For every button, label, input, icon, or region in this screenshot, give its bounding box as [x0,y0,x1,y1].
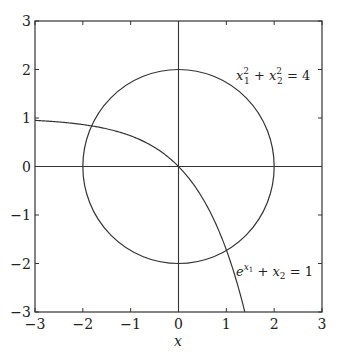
x-axis-label: x [174,333,182,349]
y-tick-label: −3 [10,304,31,320]
x-tick-label: −1 [120,316,141,332]
x-tick-label: 0 [174,316,183,332]
y-tick-label: 2 [22,62,31,78]
x-tick-label: −2 [73,316,94,332]
y-tick-label: 0 [22,159,31,175]
y-tick-label: −1 [10,207,31,223]
tick-labels: −3−2−10123−3−2−10123 [10,13,326,332]
y-tick-label: 3 [22,13,31,29]
x-tick-label: 3 [318,316,327,332]
y-tick-label: −2 [10,256,31,272]
y-tick-label: 1 [22,110,31,126]
circle-equation-label: x21 + x22 = 4 [236,66,310,86]
x-tick-label: 1 [222,316,231,332]
x-tick-label: 2 [270,316,279,332]
exponential-curve [35,120,245,312]
exp-equation-label: ex1 + x2 = 1 [236,262,313,281]
chart: −3−2−10123−3−2−10123 x21 + x22 = 4 ex1 +… [0,0,337,361]
